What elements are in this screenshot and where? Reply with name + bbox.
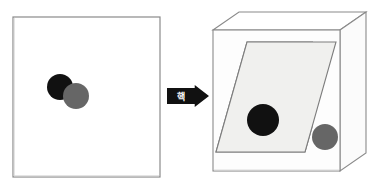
transition-arrow-group: 핵 (167, 85, 209, 107)
transition-arrow (167, 85, 209, 107)
box-side-face (340, 12, 366, 171)
right-dark-circle (247, 104, 279, 136)
right-panel-group (213, 12, 366, 171)
right-gray-circle (312, 124, 338, 150)
left-panel-group (13, 17, 160, 177)
left-gray-circle (63, 83, 89, 109)
diagram-svg: 핵 (0, 0, 377, 186)
diagram-canvas: 핵 (0, 0, 377, 186)
transition-arrow-label: 핵 (177, 91, 185, 102)
